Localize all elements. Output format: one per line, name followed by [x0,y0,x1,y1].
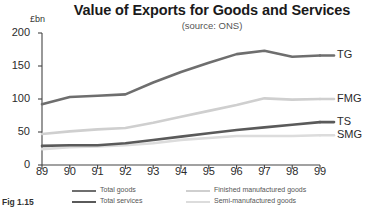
x-tick-label: 91 [87,165,109,177]
legend-label: Semi-manufactured goods [214,197,296,204]
series-label-tg: TG [337,48,352,60]
y-tick-label: 50 [4,125,30,137]
chart-figure: Value of Exports for Goods and Services … [0,0,367,208]
chart-legend: Total goodsTotal servicesFinished manufa… [0,183,367,208]
legend-label: Finished manufactured goods [214,186,306,193]
y-tick-label: 100 [4,92,30,104]
x-tick-label: 89 [31,165,53,177]
series-label-fmg: FMG [337,92,361,104]
series-label-ts: TS [337,115,351,127]
x-tick-label: 92 [114,165,136,177]
legend-swatch [72,201,96,204]
series-label-smg: SMG [337,128,362,140]
series-line-ts [42,122,320,146]
legend-swatch [72,190,96,193]
x-tick-label: 96 [226,165,248,177]
x-tick-label: 90 [59,165,81,177]
figure-caption: Fig 1.15 [2,197,34,207]
x-tick-label: 95 [198,165,220,177]
x-tick-label: 97 [253,165,275,177]
x-tick-label: 98 [281,165,303,177]
series-line-fmg [42,98,320,134]
y-tick-label: 200 [4,26,30,38]
x-tick-label: 93 [142,165,164,177]
legend-label: Total goods [100,186,136,193]
x-tick-label: 99 [309,165,331,177]
legend-swatch [186,201,210,204]
x-tick-label: 94 [170,165,192,177]
legend-swatch [186,190,210,193]
y-tick-label: 0 [4,158,30,170]
y-tick-label: 150 [4,59,30,71]
legend-label: Total services [100,197,142,204]
series-line-tg [42,51,320,104]
